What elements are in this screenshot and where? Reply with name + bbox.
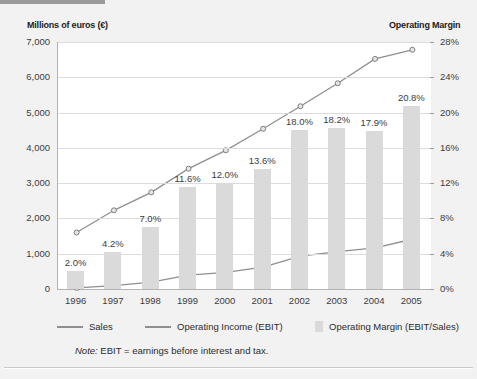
x-axis-tick-label: 2000 [205,295,245,306]
margin-bar [254,169,271,289]
legend-label: Operating Income (EBIT) [177,321,283,332]
x-axis-tick-label: 1997 [93,295,133,306]
y2-tick-mark [430,183,434,184]
y-axis-tick-label: 1,000 [4,248,50,259]
legend-line-swatch [145,326,171,328]
gridline [58,42,431,43]
margin-bar-label: 4.2% [93,238,133,249]
series-marker [410,47,415,52]
left-axis-title: Millions of euros (€) [27,20,108,30]
margin-bar-label: 12.0% [205,169,245,180]
y-axis-tick-label: 5,000 [4,107,50,118]
y2-axis-tick-label: 20% [440,107,477,118]
bottom-divider [4,367,473,369]
margin-bar [216,183,233,289]
y2-tick-mark [430,42,434,43]
chart-legend: SalesOperating Income (EBIT)Operating Ma… [57,320,437,334]
margin-bar [291,130,308,289]
margin-bar-label: 17.9% [354,117,394,128]
y-axis-tick-label: 2,000 [4,212,50,223]
x-axis-tick-label: 2002 [279,295,319,306]
margin-bar [403,106,420,289]
x-axis-tick-label: 1998 [130,295,170,306]
margin-bar [142,227,159,289]
margin-bar-label: 7.0% [130,213,170,224]
margin-bar [179,187,196,289]
margin-bar [67,271,84,289]
y-axis-tick-label: 6,000 [4,71,50,82]
y2-tick-mark [430,254,434,255]
x-axis-tick-label: 1996 [56,295,96,306]
top-accent-bar [0,0,105,4]
series-marker [111,208,116,213]
legend-bar-swatch [315,321,323,332]
y-axis-tick-label: 7,000 [4,36,50,47]
note-text: EBIT = earnings before interest and tax. [100,345,268,356]
y2-axis-tick-label: 28% [440,36,477,47]
y2-axis-tick-label: 0% [440,283,477,294]
series-marker [261,126,266,131]
x-axis-tick-label: 1999 [168,295,208,306]
y2-tick-mark [430,218,434,219]
y2-axis-tick-label: 4% [440,248,477,259]
x-axis-tick-label: 2005 [391,295,431,306]
y-axis-tick-label: 0 [4,283,50,294]
margin-bar-label: 18.2% [317,114,357,125]
legend-line-swatch [57,326,83,328]
y2-axis-tick-label: 8% [440,212,477,223]
margin-bar-label: 13.6% [242,155,282,166]
note-prefix: Note: [75,345,98,356]
legend-label: Operating Margin (EBIT/Sales) [329,321,459,332]
chart-note: Note: EBIT = earnings before interest an… [75,345,268,356]
x-axis-tick-label: 2001 [242,295,282,306]
y2-axis-tick-label: 16% [440,142,477,153]
legend-label: Sales [89,321,113,332]
y2-tick-mark [430,113,434,114]
margin-bar-label: 11.6% [168,173,208,184]
right-axis-title: Operating Margin [389,20,460,30]
y2-tick-mark [430,289,434,290]
margin-bar [104,252,121,289]
series-marker [186,166,191,171]
series-marker [335,81,340,86]
gridline [58,77,431,78]
series-marker [149,190,154,195]
y2-tick-mark [430,148,434,149]
y2-tick-mark [430,77,434,78]
margin-bar [328,128,345,289]
x-axis-tick-label: 2003 [317,295,357,306]
gridline [58,113,431,114]
series-marker [74,230,79,235]
series-marker [298,104,303,109]
margin-bar-label: 20.8% [391,92,431,103]
margin-bar [366,131,383,289]
x-axis-tick-label: 2004 [354,295,394,306]
y2-axis-tick-label: 24% [440,71,477,82]
y-axis-tick-label: 4,000 [4,142,50,153]
y-axis-tick-label: 3,000 [4,177,50,188]
margin-bar-label: 18.0% [279,116,319,127]
margin-bar-label: 2.0% [56,257,96,268]
series-marker [373,56,378,61]
y2-axis-tick-label: 12% [440,177,477,188]
